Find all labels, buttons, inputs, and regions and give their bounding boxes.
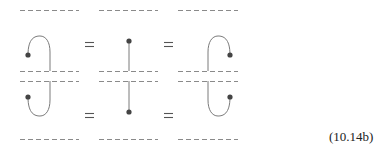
strand-bottom-right-arc <box>208 81 230 116</box>
dot-bottom-right <box>227 94 232 99</box>
equals-bottom-2 <box>164 114 173 118</box>
strand-top-right-arc <box>208 36 230 71</box>
dashed-boundaries <box>20 11 238 140</box>
equals-top-1 <box>85 43 94 47</box>
dot-top-mid <box>126 38 131 43</box>
dot-bottom-mid <box>126 109 131 114</box>
strands <box>28 36 230 116</box>
strand-bottom-left-arc <box>28 81 50 116</box>
strand-top-left-arc <box>28 36 50 71</box>
dot-top-right <box>227 52 232 57</box>
dot-top-left <box>25 52 30 57</box>
equation-number: (10.14b) <box>329 129 373 145</box>
equals-top-2 <box>164 43 173 47</box>
equals-bottom-1 <box>85 114 94 118</box>
dot-bottom-left <box>25 94 30 99</box>
